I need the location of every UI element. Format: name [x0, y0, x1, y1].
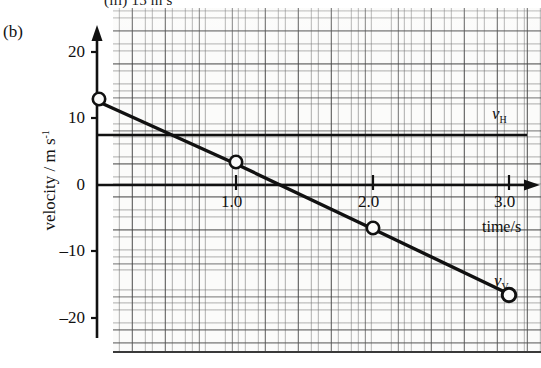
series-label-vv-text: v: [494, 271, 502, 290]
series-label-vh: vH: [492, 104, 507, 125]
x-tick-label-2: 2.0: [358, 192, 379, 212]
series-label-vv: vV: [494, 271, 509, 292]
y-axis-title: velocity / m s-1: [40, 90, 61, 270]
x-tick-label-1: 1.0: [221, 192, 242, 212]
series-label-vv-subscript: V: [502, 281, 509, 292]
x-axis-title: time/s: [482, 218, 521, 236]
y-tick-label-minus-20: –20: [28, 308, 85, 328]
y-tick-label-20: 20: [40, 42, 85, 62]
y-axis-title-text: velocity / m s: [40, 138, 59, 230]
series-line-vv: [99, 102, 509, 294]
y-axis-title-exponent: -1: [40, 130, 51, 138]
series-label-vh-subscript: H: [500, 114, 507, 125]
x-tick-label-3: 3.0: [494, 192, 515, 212]
graph-figure: (iii) 15 m s-1 (b): [0, 0, 541, 368]
series-label-vh-text: v: [492, 104, 500, 123]
x-axis: [97, 180, 540, 191]
y-axis: [92, 25, 103, 338]
